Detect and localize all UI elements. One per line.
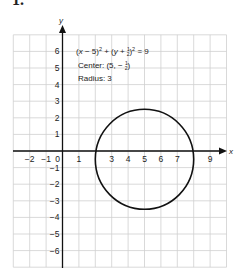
x-tick-label: −2 xyxy=(25,154,35,164)
x-tick-label: 1 xyxy=(77,154,82,164)
y-tick-label: −4 xyxy=(50,212,60,222)
y-tick-label: 1 xyxy=(55,129,60,139)
x-tick-label: 7 xyxy=(175,154,180,164)
y-axis-label: y xyxy=(58,16,64,25)
y-tick-label: −5 xyxy=(50,229,60,239)
y-tick-label: 2 xyxy=(55,113,60,123)
y-axis-arrow-icon xyxy=(59,25,66,33)
y-tick-label: 5 xyxy=(55,63,60,73)
radius-label: Radius: 3 xyxy=(78,74,112,83)
x-tick-label: 5 xyxy=(142,154,147,164)
y-tick-label: −2 xyxy=(50,179,60,189)
y-tick-label: −3 xyxy=(50,196,60,206)
x-tick-label: 4 xyxy=(126,154,131,164)
x-tick-label: 3 xyxy=(109,154,114,164)
x-axis-arrow-icon xyxy=(219,148,227,155)
x-axis-label: x xyxy=(228,147,234,156)
y-tick-label: 6 xyxy=(55,46,60,56)
x-tick-label: 6 xyxy=(159,154,164,164)
y-tick-label: 3 xyxy=(55,96,60,106)
center-label: Center: (5, − 12) xyxy=(78,60,130,71)
y-tick-label: 4 xyxy=(55,80,60,90)
coordinate-plane: x y −2−101345679 654321−1−2−3−4−5−6 (x −… xyxy=(0,0,246,278)
y-tick-label: −1 xyxy=(50,163,60,173)
y-tick-label: −6 xyxy=(50,246,60,256)
equation-label: (x − 5)2 + (y + 12)2 = 9 xyxy=(76,46,149,57)
x-tick-label: 9 xyxy=(208,154,213,164)
